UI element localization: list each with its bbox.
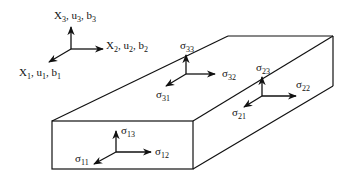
right-face-stress-triad [244,77,296,107]
sigma23-label: σ23 [256,61,270,76]
sigma32-label: σ32 [222,67,236,82]
x1-axis-label: X1, u1, b1 [19,66,61,81]
sigma31-arrow [166,74,186,86]
coordinate-axes [49,27,103,62]
block [52,36,333,169]
top-face-stress-triad [166,55,215,86]
sigma33-label: σ33 [180,39,194,54]
sigma11-label: σ11 [75,152,89,167]
top-right-edge [193,36,333,121]
x2-axis-label: X2, u2, b2 [106,39,148,54]
sigma21-arrow [244,96,262,107]
sigma22-label: σ22 [296,78,310,93]
x3-axis-label: X3, u3, b3 [54,9,96,24]
sigma11-arrow [94,152,116,164]
stress-diagram: X3, u3, b3 X2, u2, b2 X1, u1, b1 σ33 σ32… [0,0,351,183]
bottom-right-edge [193,86,333,169]
sigma12-label: σ12 [155,145,169,160]
sigma31-label: σ31 [156,88,170,103]
x1-axis-arrow [49,49,71,62]
sigma13-label: σ13 [121,124,135,139]
sigma21-label: σ21 [232,106,246,121]
